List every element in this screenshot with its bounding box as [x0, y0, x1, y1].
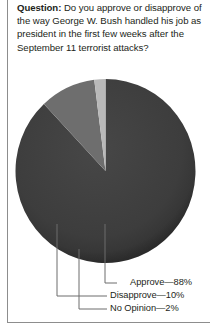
pie-chart-svg: [14, 78, 197, 264]
legend-item-disapprove: Disapprove—10%: [108, 289, 211, 302]
pie-chart: [14, 78, 197, 264]
frame-vertical-rule: [7, 0, 8, 323]
frame-bottom-rule: [7, 322, 210, 323]
question-block: Question: Do you approve or disapprove o…: [17, 1, 205, 54]
legend-label-approve: Approve—88%: [130, 277, 192, 287]
question-label: Question:: [17, 2, 61, 13]
legend-label-disapprove: Disapprove—10%: [110, 290, 184, 300]
pie-edge-shading: [16, 79, 196, 263]
legend-item-approve: Approve—88%: [118, 276, 211, 289]
chart-legend: Approve—88% Disapprove—10% No Opinion—2%: [118, 276, 211, 315]
legend-item-no-opinion: No Opinion—2%: [108, 302, 211, 315]
legend-label-no-opinion: No Opinion—2%: [110, 303, 179, 313]
